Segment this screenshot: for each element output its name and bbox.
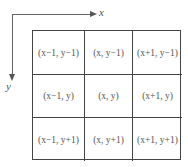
y-axis-line bbox=[12, 14, 13, 76]
x-axis-arrowhead-icon bbox=[90, 11, 97, 17]
grid-cell-middle-left: (x−1, y) bbox=[33, 75, 85, 118]
y-axis-label: y bbox=[6, 80, 11, 92]
grid-cell-bottom-right: (x+1, y+1) bbox=[133, 118, 182, 161]
x-axis-label: x bbox=[99, 6, 104, 18]
grid-cell-bottom-center: (x, y+1) bbox=[85, 118, 133, 161]
grid-cell-bottom-left: (x−1, y+1) bbox=[33, 118, 85, 161]
grid-cell-top-center: (x, y−1) bbox=[85, 31, 133, 75]
grid-cell-middle-right: (x+1, y) bbox=[133, 75, 182, 118]
grid-cell-top-right: (x+1, y−1) bbox=[133, 31, 182, 75]
grid-cell-top-left: (x−1, y−1) bbox=[33, 31, 85, 75]
neighborhood-grid: (x−1, y−1) (x, y−1) (x+1, y−1) (x−1, y) … bbox=[32, 30, 181, 160]
grid-cell-center: (x, y) bbox=[85, 75, 133, 118]
x-axis-line bbox=[12, 14, 92, 15]
